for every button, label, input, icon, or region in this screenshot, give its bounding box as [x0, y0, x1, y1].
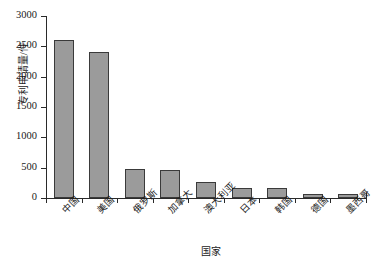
bar-chart: 专利申请量/件 050010001500200025003000 中国美国俄罗斯…: [0, 0, 381, 264]
y-tick-label: 1500: [0, 101, 37, 112]
x-tick: [295, 198, 296, 203]
y-tick-label: 1000: [0, 131, 37, 142]
plot-area: [46, 16, 366, 198]
bar: [89, 52, 109, 198]
x-tick: [117, 198, 118, 203]
x-axis-title-text: 国家: [201, 246, 221, 257]
y-tick-label: 2500: [0, 40, 37, 51]
y-tick-label: 500: [0, 162, 37, 173]
y-tick-label: 0: [0, 192, 37, 203]
y-tick-label: 2000: [0, 71, 37, 82]
bar: [54, 40, 74, 198]
bar-group: [46, 16, 366, 198]
y-tick-label: 3000: [0, 10, 37, 21]
x-axis-title: 国家: [0, 243, 381, 258]
x-tick: [46, 198, 47, 203]
